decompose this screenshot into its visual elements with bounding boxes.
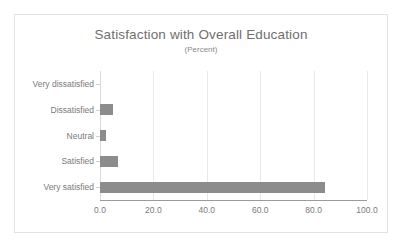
x-axis-tick-label: 20.0 <box>145 205 162 215</box>
x-axis-line <box>100 200 367 201</box>
y-axis-tick <box>96 161 100 162</box>
y-axis-tick <box>96 110 100 111</box>
x-axis-tick-label: 0.0 <box>94 205 106 215</box>
x-axis-tick-label: 100.0 <box>356 205 377 215</box>
bar-row[interactable] <box>100 97 367 123</box>
y-axis-tick-label: Very dissatisfied <box>0 79 94 89</box>
bar-row[interactable] <box>100 174 367 200</box>
bar-very-satisfied[interactable] <box>100 182 325 193</box>
y-axis-tick-label: Satisfied <box>0 156 94 166</box>
chart-frame: Satisfaction with Overall Education (Per… <box>14 14 388 233</box>
gridline <box>367 71 368 200</box>
bar-row[interactable] <box>100 71 367 97</box>
x-axis-tick-label: 80.0 <box>305 205 322 215</box>
y-axis-tick-label: Dissatisfied <box>0 105 94 115</box>
x-axis-tick-label: 40.0 <box>199 205 216 215</box>
y-axis-tick <box>96 84 100 85</box>
x-axis-tick-label: 60.0 <box>252 205 269 215</box>
plot-area <box>100 71 367 200</box>
bar-neutral[interactable] <box>100 130 106 141</box>
y-axis-tick <box>96 136 100 137</box>
y-axis-tick-label: Very satisfied <box>0 182 94 192</box>
bar-satisfied[interactable] <box>100 156 118 167</box>
bar-row[interactable] <box>100 123 367 149</box>
bar-dissatisfied[interactable] <box>100 104 113 115</box>
y-axis-tick-label: Neutral <box>0 131 94 141</box>
bar-row[interactable] <box>100 148 367 174</box>
y-axis-tick <box>96 187 100 188</box>
plot-wrap: Very dissatisfiedDissatisfiedNeutralSati… <box>15 15 389 234</box>
